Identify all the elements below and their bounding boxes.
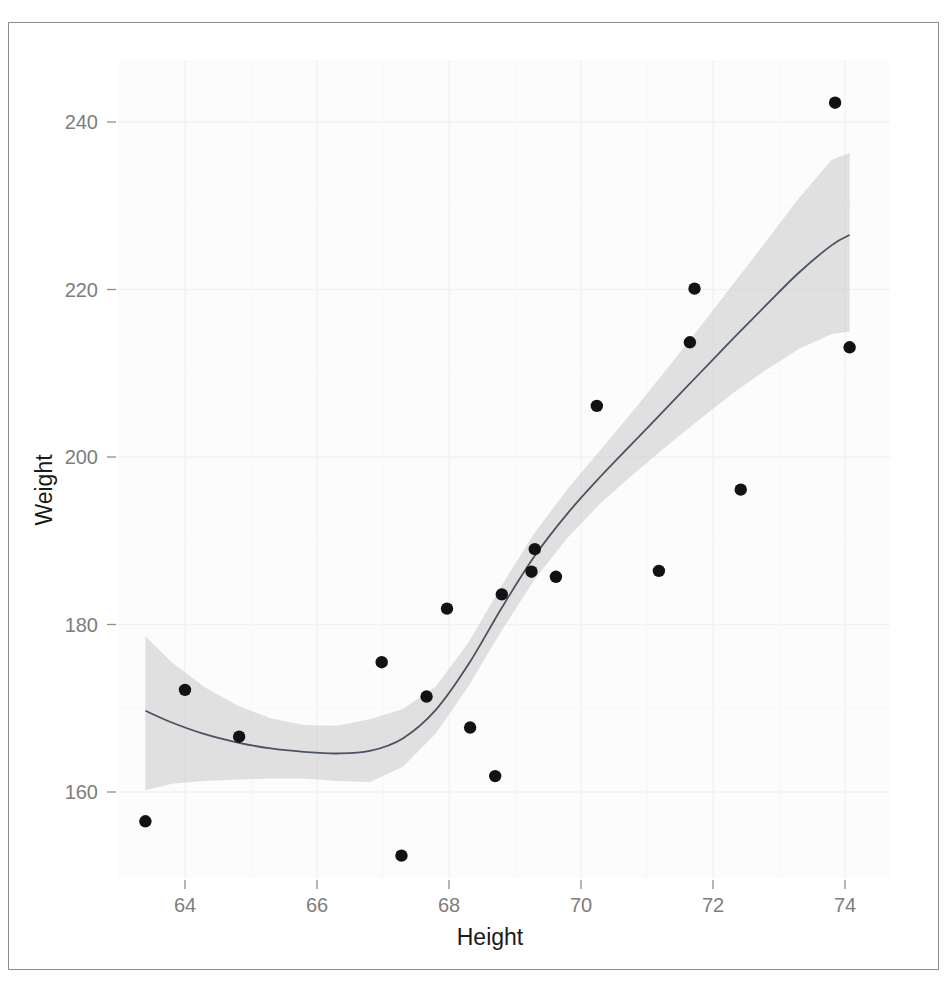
data-point <box>591 400 603 412</box>
data-point <box>441 602 453 614</box>
y-axis-tick-label: 180 <box>65 614 98 636</box>
data-point <box>496 588 508 600</box>
data-point <box>179 684 191 696</box>
data-point <box>525 566 537 578</box>
data-point <box>233 731 245 743</box>
data-point <box>139 815 151 827</box>
data-point <box>735 483 747 495</box>
scatter-plot-svg: 646668707274160180200220240 Height Weigh… <box>0 0 951 1001</box>
data-point <box>489 770 501 782</box>
y-axis-title: Weight <box>31 454 57 526</box>
data-point <box>550 571 562 583</box>
x-axis-tick-label: 68 <box>438 894 460 916</box>
data-point <box>829 97 841 109</box>
y-axis-tick-label: 240 <box>65 111 98 133</box>
data-point <box>395 849 407 861</box>
data-point <box>529 543 541 555</box>
data-point <box>653 565 665 577</box>
y-axis-tick-label: 220 <box>65 279 98 301</box>
data-point <box>684 336 696 348</box>
x-axis-tick-label: 72 <box>702 894 724 916</box>
data-point <box>464 721 476 733</box>
x-axis-title: Height <box>457 924 524 950</box>
x-axis-tick-label: 74 <box>834 894 856 916</box>
x-axis-tick-label: 66 <box>306 894 328 916</box>
y-axis-tick-label: 200 <box>65 446 98 468</box>
x-axis-tick-label: 70 <box>570 894 592 916</box>
y-axis-tick-label: 160 <box>65 781 98 803</box>
data-point <box>375 656 387 668</box>
data-point <box>843 341 855 353</box>
data-point <box>688 282 700 294</box>
data-point <box>420 690 432 702</box>
plot-area: 646668707274160180200220240 Height Weigh… <box>0 0 951 1001</box>
x-axis-tick-label: 64 <box>174 894 196 916</box>
figure-container: 646668707274160180200220240 Height Weigh… <box>0 0 951 1001</box>
